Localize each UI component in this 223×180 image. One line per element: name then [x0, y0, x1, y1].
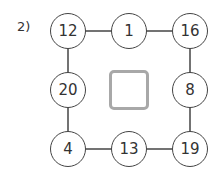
problem-number: 2): [17, 19, 30, 34]
answer-box[interactable]: [109, 70, 149, 110]
node-top-left: 12: [50, 13, 86, 49]
node-middle-left: 20: [50, 72, 86, 108]
node-bottom-right: 19: [172, 131, 208, 167]
node-top-right: 16: [172, 13, 208, 49]
node-bottom-middle: 13: [111, 131, 147, 167]
node-bottom-left: 4: [50, 131, 86, 167]
node-middle-right: 8: [172, 72, 208, 108]
node-top-middle: 1: [111, 13, 147, 49]
